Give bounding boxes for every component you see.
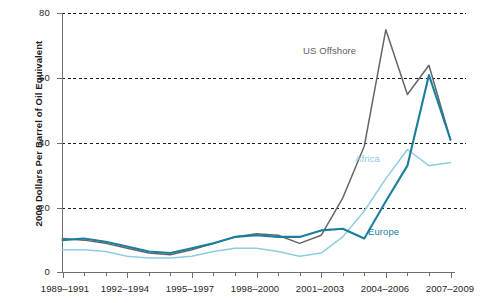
y-tick-marks <box>57 14 62 273</box>
chart-container: 2009 Dollars Per Barrel of Oil Equivalen… <box>0 0 481 303</box>
plot-area <box>0 0 481 303</box>
series-label-us-offshore: US Offshore <box>303 45 356 56</box>
series-label-africa: Africa <box>355 153 380 164</box>
series-line-africa <box>63 149 451 257</box>
gridlines <box>62 14 466 209</box>
y-tick-label-0: 0 <box>28 266 50 277</box>
y-tick-label-80: 80 <box>28 7 50 18</box>
y-tick-label-40: 40 <box>28 137 50 148</box>
x-tick-marks <box>64 273 452 278</box>
y-tick-label-60: 60 <box>28 72 50 83</box>
x-tick-label-2007-2009: 2007–2009 <box>385 283 481 294</box>
series-label-europe: Europe <box>368 226 399 237</box>
series-line-us-offshore <box>63 30 451 255</box>
y-tick-label-20: 20 <box>28 202 50 213</box>
